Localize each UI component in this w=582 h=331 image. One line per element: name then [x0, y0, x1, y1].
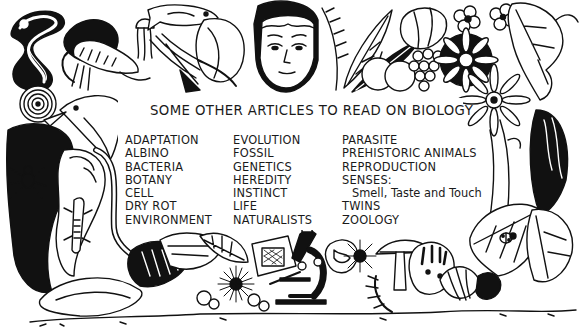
fern-icon	[366, 276, 392, 312]
article-link-albino[interactable]: ALBINO	[125, 147, 212, 160]
article-subtitle-senses: Smell, Taste and Touch	[342, 187, 482, 200]
article-link-instinct[interactable]: INSTINCT	[233, 187, 312, 200]
article-link-bacteria[interactable]: BACTERIA	[125, 161, 212, 174]
article-link-life[interactable]: LIFE	[233, 200, 312, 213]
article-link-evolution[interactable]: EVOLUTION	[233, 134, 312, 147]
vine-leaf-icon	[508, 3, 578, 100]
article-link-prehistoric-animals[interactable]: PREHISTORIC ANIMALS	[342, 147, 482, 160]
article-link-adaptation[interactable]: ADAPTATION	[125, 134, 212, 147]
article-link-botany[interactable]: BOTANY	[125, 174, 212, 187]
daisy-flower-icon	[458, 64, 530, 136]
article-link-zoology[interactable]: ZOOLOGY	[342, 214, 482, 227]
article-link-fossil[interactable]: FOSSIL	[233, 147, 312, 160]
article-link-cell[interactable]: CELL	[125, 187, 212, 200]
blossom-icon	[454, 4, 516, 32]
article-column-3: PARASITE PREHISTORIC ANIMALS REPRODUCTIO…	[342, 134, 482, 227]
leaf-icon	[470, 204, 573, 282]
article-link-environment[interactable]: ENVIRONMENT	[125, 214, 212, 227]
article-link-naturalists[interactable]: NATURALISTS	[233, 214, 312, 227]
leaf-pod-icon	[401, 8, 447, 49]
human-face-icon	[254, 1, 318, 92]
article-link-heredity[interactable]: HEREDITY	[233, 174, 312, 187]
page-title: SOME OTHER ARTICLES TO READ ON BIOLOGY	[150, 103, 450, 118]
snail-shell-icon	[20, 86, 56, 122]
article-link-dry-rot[interactable]: DRY ROT	[125, 200, 212, 213]
slide-specimen-icon	[252, 236, 296, 276]
seed-pod-icon	[196, 19, 244, 86]
article-link-parasite[interactable]: PARASITE	[342, 134, 482, 147]
article-column-2: EVOLUTION FOSSIL GENETICS HEREDITY INSTI…	[233, 134, 312, 227]
sea-urchin-icon	[344, 240, 376, 272]
article-link-genetics[interactable]: GENETICS	[233, 161, 312, 174]
grapes-icon	[409, 49, 443, 91]
snake-icon	[11, 11, 64, 91]
article-link-twins[interactable]: TWINS	[342, 200, 482, 213]
dark-foliage	[476, 273, 501, 299]
shrimp-icon	[62, 20, 150, 90]
daisy-flower-icon	[434, 28, 498, 92]
onion-bulb-icon	[440, 267, 480, 300]
article-link-reproduction[interactable]: REPRODUCTION	[342, 161, 482, 174]
biology-articles-page: SOME OTHER ARTICLES TO READ ON BIOLOGY A…	[0, 0, 582, 331]
article-link-senses[interactable]: SENSES:	[342, 174, 482, 187]
article-column-1: ADAPTATION ALBINO BACTERIA BOTANY CELL D…	[125, 134, 212, 227]
